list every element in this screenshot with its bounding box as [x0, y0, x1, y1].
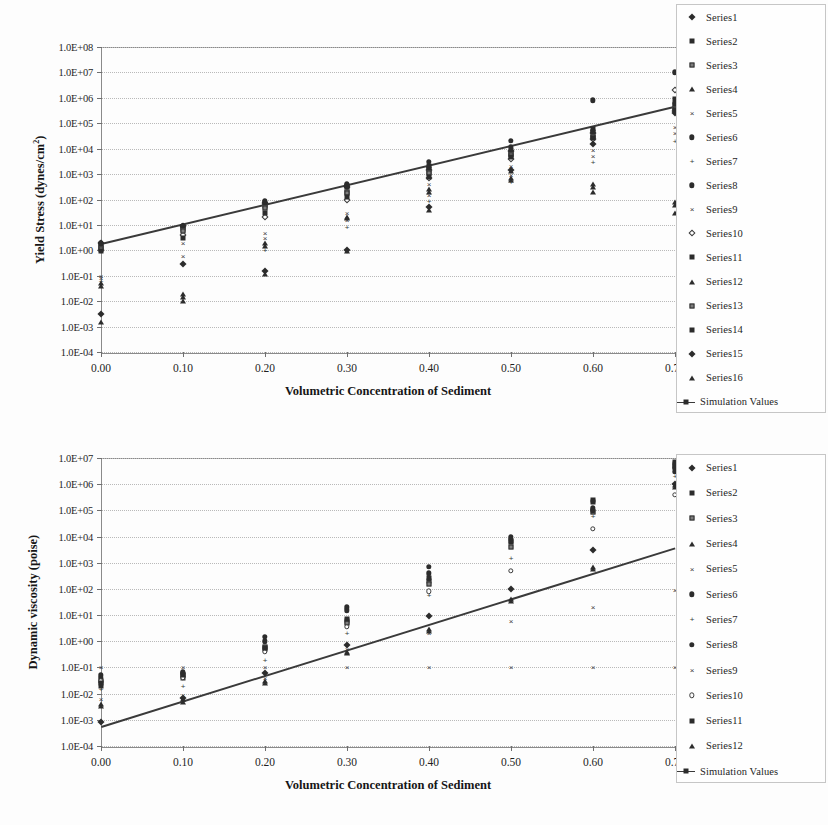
legend-line-marker-icon	[677, 397, 695, 407]
x-tick-label: 0.00	[91, 756, 111, 768]
legend-label: Series9	[706, 204, 738, 215]
data-point-square	[345, 617, 350, 622]
y-gridline	[101, 458, 675, 459]
x-tick-label: 0.40	[419, 362, 439, 374]
legend-label: Series10	[706, 690, 743, 701]
data-point-triangle	[180, 699, 186, 704]
data-point-x: ×	[180, 691, 187, 698]
y-tick-label: 1.0E+05	[0, 118, 93, 129]
legend-x-icon: ×	[689, 206, 696, 213]
y-tick-label: 1.0E+07	[0, 453, 93, 464]
y-gridline	[101, 276, 675, 277]
y-tick-mark	[97, 327, 102, 328]
legend-item[interactable]: Series3	[677, 53, 825, 77]
legend-item[interactable]: ×Series9	[677, 197, 825, 221]
legend-item[interactable]: ×Series5	[677, 556, 825, 581]
legend-item-simulation-values[interactable]: Simulation Values	[677, 759, 825, 784]
y-gridline	[101, 72, 675, 73]
data-point-plus: +	[344, 630, 351, 637]
y-gridline	[101, 694, 675, 695]
y-gridline	[101, 47, 675, 48]
data-point-x: ×	[426, 664, 433, 671]
y-gridline	[101, 641, 675, 642]
legend-item[interactable]: Series12	[677, 733, 825, 758]
x-tick-label: 0.30	[337, 362, 357, 374]
y-tick-label: 1.0E+02	[0, 583, 93, 594]
legend-item[interactable]: Series11	[677, 245, 825, 269]
data-point-square	[509, 155, 514, 160]
x-tick-mark	[429, 746, 430, 751]
data-point-x: ×	[426, 192, 433, 199]
legend-label: Series5	[706, 563, 738, 574]
legend-item[interactable]: Series16	[677, 366, 825, 390]
legend-item[interactable]: Series6	[677, 581, 825, 606]
legend-label: Series3	[706, 60, 738, 71]
legend-sq-open-icon	[690, 303, 695, 308]
data-point-triangle	[262, 243, 268, 248]
data-point-x: ×	[98, 275, 105, 282]
legend-item[interactable]: ×Series5	[677, 101, 825, 125]
legend-item[interactable]: Series4	[677, 531, 825, 556]
legend-circle-icon	[689, 591, 694, 596]
y-gridline	[101, 484, 675, 485]
legend-square-icon	[690, 327, 695, 332]
legend-item[interactable]: Series14	[677, 318, 825, 342]
y-tick-mark	[97, 225, 102, 226]
legend-marker-x-icon: ×	[683, 108, 701, 118]
data-point-x: ×	[98, 664, 105, 671]
legend-square-icon	[690, 39, 695, 44]
legend-triangle-icon	[689, 743, 695, 748]
y-tick-mark	[97, 641, 102, 642]
x-tick-mark	[593, 746, 594, 751]
legend-item[interactable]: Series10	[677, 221, 825, 245]
legend-label: Series11	[706, 715, 743, 726]
legend-item[interactable]: Series8	[677, 632, 825, 657]
legend-diamond-icon	[688, 13, 695, 20]
y-tick-label: 1.0E-02	[0, 296, 93, 307]
legend-item[interactable]: Series13	[677, 294, 825, 318]
legend-item[interactable]: Series1	[677, 455, 825, 480]
legend-triangle-icon	[689, 541, 695, 546]
x-tick-mark	[101, 746, 102, 751]
legend-item[interactable]: Series12	[677, 270, 825, 294]
legend-item[interactable]: Series11	[677, 708, 825, 733]
legend-item[interactable]: Series1	[677, 5, 825, 29]
legend-marker-triangle-icon	[683, 84, 701, 94]
y-gridline	[101, 563, 675, 564]
legend-item[interactable]: +Series7	[677, 607, 825, 632]
legend-item[interactable]: Series2	[677, 29, 825, 53]
data-point-x: ×	[344, 664, 351, 671]
y-gridline	[101, 98, 675, 99]
legend-triangle-icon	[689, 279, 695, 284]
legend-label: Series7	[706, 614, 738, 625]
legend-item[interactable]: Series3	[677, 506, 825, 531]
legend-plus-icon: +	[689, 158, 696, 165]
legend-item[interactable]: Series2	[677, 480, 825, 505]
legend-line-marker-icon	[677, 766, 695, 776]
x-tick-label: 0.30	[337, 756, 357, 768]
legend-circle-icon	[689, 183, 694, 188]
data-point-triangle	[426, 207, 432, 212]
y-tick-label: 1.0E+08	[0, 42, 93, 53]
legend-item[interactable]: ×Series9	[677, 657, 825, 682]
legend-item[interactable]: Series4	[677, 77, 825, 101]
yield-stress-legend[interactable]: Series1Series2Series3Series4×Series5Seri…	[676, 4, 826, 413]
legend-item[interactable]: Series6	[677, 125, 825, 149]
legend-item[interactable]: Series8	[677, 173, 825, 197]
legend-marker-sq-open-icon	[683, 301, 701, 311]
legend-item[interactable]: Series15	[677, 342, 825, 366]
data-point-triangle	[344, 216, 350, 221]
x-tick-label: 0.00	[91, 362, 111, 374]
y-tick-mark	[97, 589, 102, 590]
legend-item[interactable]: +Series7	[677, 149, 825, 173]
legend-item[interactable]: Series10	[677, 683, 825, 708]
legend-marker-sq-open-icon	[683, 60, 701, 70]
data-point-square	[427, 576, 432, 581]
legend-label: Series9	[706, 665, 738, 676]
x-tick-mark	[101, 352, 102, 357]
dynamic-viscosity-legend[interactable]: Series1Series2Series3Series4×Series5Seri…	[676, 454, 826, 783]
legend-item-simulation-values[interactable]: Simulation Values	[677, 390, 825, 414]
legend-label: Simulation Values	[700, 766, 778, 777]
legend-label: Series12	[706, 740, 743, 751]
y-tick-label: 1.0E-01	[0, 662, 93, 673]
